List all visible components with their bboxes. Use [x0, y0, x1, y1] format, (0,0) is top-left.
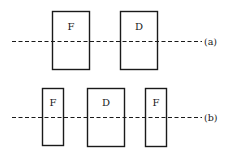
element-label-a-1: F [68, 21, 75, 32]
element-label-a-2: D [135, 21, 143, 32]
element-label-b-3: F [153, 97, 160, 108]
element-label-b-1: F [50, 97, 57, 108]
configuration-b: F D F (b) [12, 89, 218, 147]
configuration-label-a: (a) [204, 36, 217, 47]
element-label-b-2: D [102, 97, 110, 108]
configuration-label-b: (b) [204, 112, 218, 123]
diagram-canvas: F D (a) F D F (b) [0, 0, 231, 156]
configuration-a: F D (a) [12, 12, 217, 70]
